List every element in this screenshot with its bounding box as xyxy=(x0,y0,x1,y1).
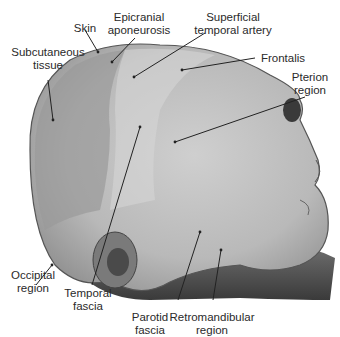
label-pterion-region: Pterionregion xyxy=(292,71,328,97)
label-parotid-fascia: Parotidfascia xyxy=(132,311,168,337)
label-occipital-region: Occipitalregion xyxy=(11,269,55,295)
label-skin: Skin xyxy=(74,22,96,35)
label-subcutaneous-tissue: Subcutaneoustissue xyxy=(11,46,85,72)
label-superficial-temporal-artery: Superficialtemporal artery xyxy=(194,11,271,37)
label-temporal-fascia: Temporalfascia xyxy=(64,287,111,313)
label-retromandibular-region: Retromandibularregion xyxy=(169,311,254,337)
label-frontalis: Frontalis xyxy=(261,52,305,65)
anatomy-figure: Skin Epicranialaponeurosis Superficialte… xyxy=(0,0,340,337)
label-epicranial-aponeurosis: Epicranialaponeurosis xyxy=(108,11,171,37)
